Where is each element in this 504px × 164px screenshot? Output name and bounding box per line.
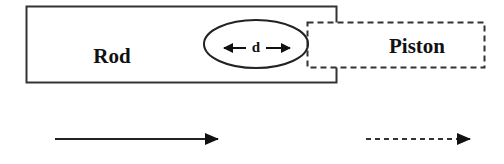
overlap-indicator: d — [204, 20, 308, 68]
rod-piston-diagram: Rod Piston d — [0, 0, 504, 164]
rod-box: Rod — [27, 7, 337, 83]
piston-label: Piston — [389, 34, 445, 58]
piston-box: Piston — [308, 23, 485, 68]
rod-label: Rod — [93, 44, 131, 68]
overlap-label: d — [252, 39, 261, 55]
